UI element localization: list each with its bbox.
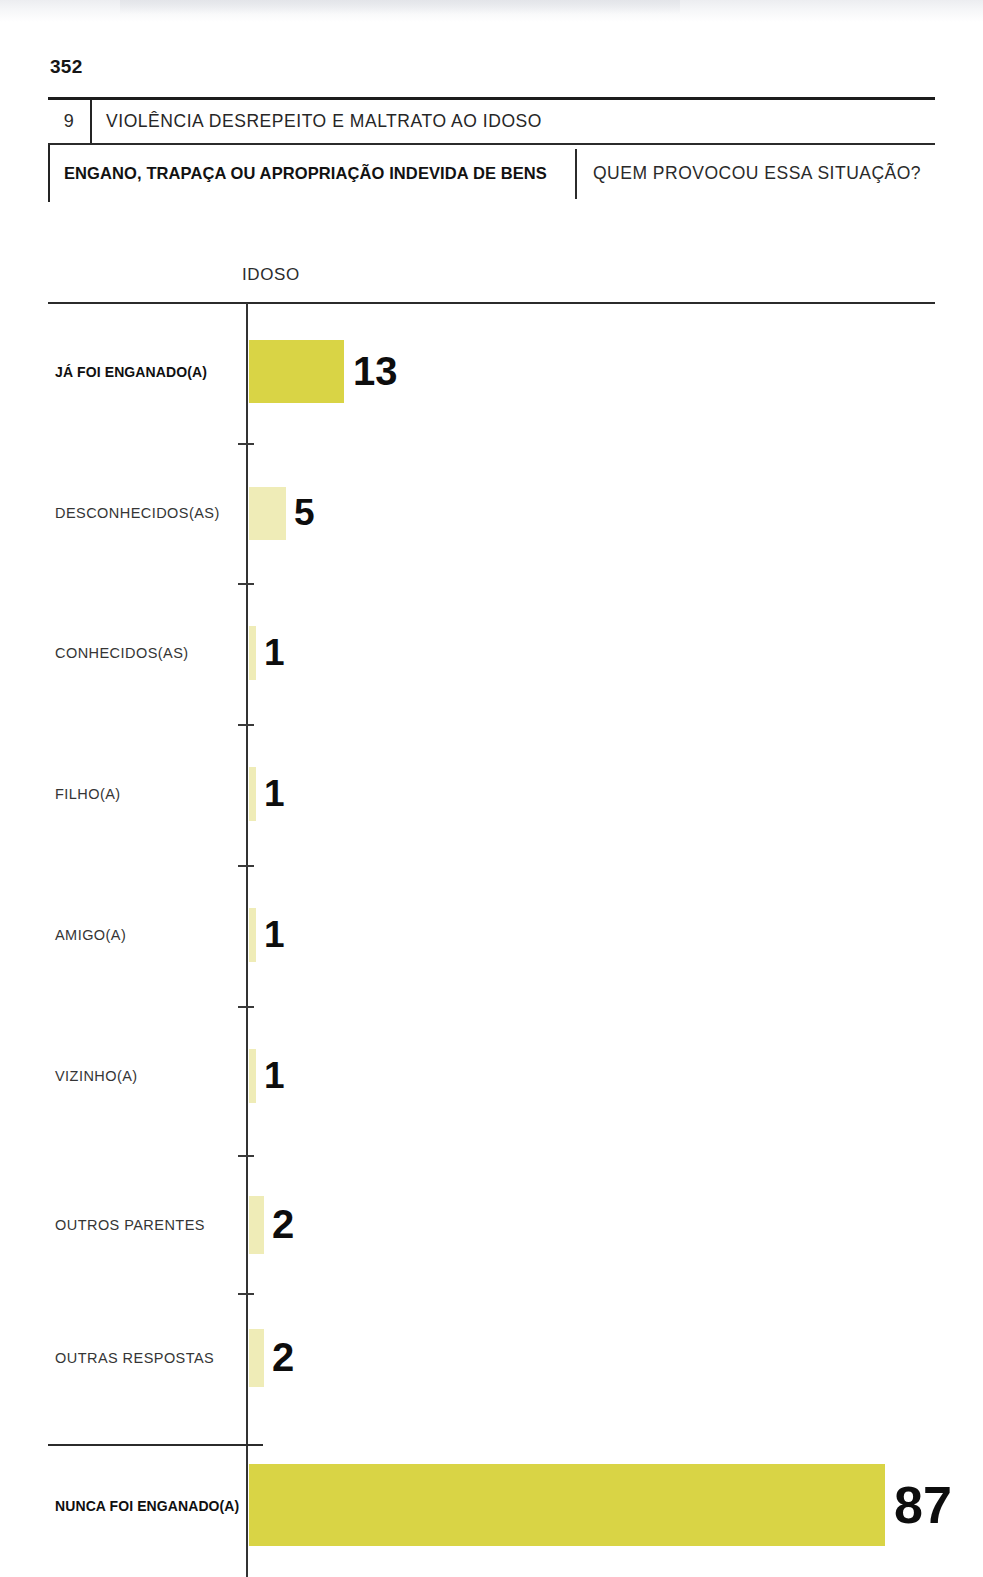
axis-tick	[238, 583, 254, 585]
bar-value-label: 1	[264, 775, 285, 812]
category-group-separator	[48, 1444, 263, 1446]
category-label: FILHO(A)	[55, 786, 121, 802]
bar-chart: IDOSO 13JÁ FOI ENGANADO(A)5DESCONHECIDOS…	[0, 0, 983, 1577]
series-label-idoso: IDOSO	[242, 265, 300, 285]
category-label: AMIGO(A)	[55, 927, 126, 943]
axis-tick	[238, 1155, 254, 1157]
bar-value-label: 1	[264, 1057, 285, 1094]
chart-top-rule	[48, 302, 935, 304]
bar-value-label: 2	[272, 1204, 294, 1244]
category-label: NUNCA FOI ENGANADO(A)	[55, 1498, 239, 1514]
bar	[249, 626, 256, 680]
bar	[249, 1196, 264, 1254]
axis-tick	[238, 443, 254, 445]
axis-tick	[238, 1293, 254, 1295]
bar	[249, 908, 256, 962]
bar	[249, 1049, 256, 1103]
bar	[249, 340, 344, 403]
category-label: CONHECIDOS(AS)	[55, 645, 189, 661]
category-label: DESCONHECIDOS(AS)	[55, 505, 220, 521]
bar-value-label: 1	[264, 916, 285, 953]
bar-value-label: 87	[894, 1479, 952, 1531]
bar-value-label: 13	[353, 351, 398, 391]
bar	[249, 1329, 264, 1387]
category-label: OUTRAS RESPOSTAS	[55, 1350, 214, 1366]
bar-value-label: 1	[264, 634, 285, 671]
bar-value-label: 2	[272, 1337, 294, 1377]
bar-value-label: 5	[294, 494, 315, 531]
bar	[249, 487, 286, 540]
bar	[249, 767, 256, 821]
axis-tick	[238, 865, 254, 867]
category-label: VIZINHO(A)	[55, 1068, 138, 1084]
axis-tick	[238, 1006, 254, 1008]
category-label: OUTROS PARENTES	[55, 1217, 205, 1233]
bar	[249, 1464, 885, 1546]
axis-tick	[238, 724, 254, 726]
category-label: JÁ FOI ENGANADO(A)	[55, 364, 207, 380]
chart-value-axis	[246, 303, 248, 1577]
